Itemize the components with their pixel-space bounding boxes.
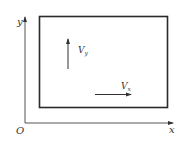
boundary-rectangle — [40, 17, 168, 108]
origin-label: O — [16, 125, 24, 136]
velocity-diagram: y x O Vy Vx — [0, 0, 187, 145]
vx-label: Vx — [121, 81, 132, 92]
x-axis-label: x — [169, 124, 175, 135]
y-axis-label: y — [16, 16, 23, 27]
vy-label: Vy — [78, 45, 89, 57]
